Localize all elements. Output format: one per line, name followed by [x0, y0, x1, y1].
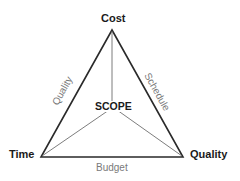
spoke-to-quality — [117, 110, 182, 156]
vertex-label-quality: Quality — [190, 149, 227, 160]
center-label-scope: SCOPE — [94, 101, 133, 112]
spoke-to-time — [42, 110, 109, 156]
edge-label-bottom-budget: Budget — [96, 163, 128, 173]
scope-triangle-diagram: Cost Time Quality SCOPE Quality Schedule… — [0, 0, 240, 181]
vertex-label-time: Time — [9, 149, 34, 160]
vertex-label-cost: Cost — [101, 13, 125, 24]
